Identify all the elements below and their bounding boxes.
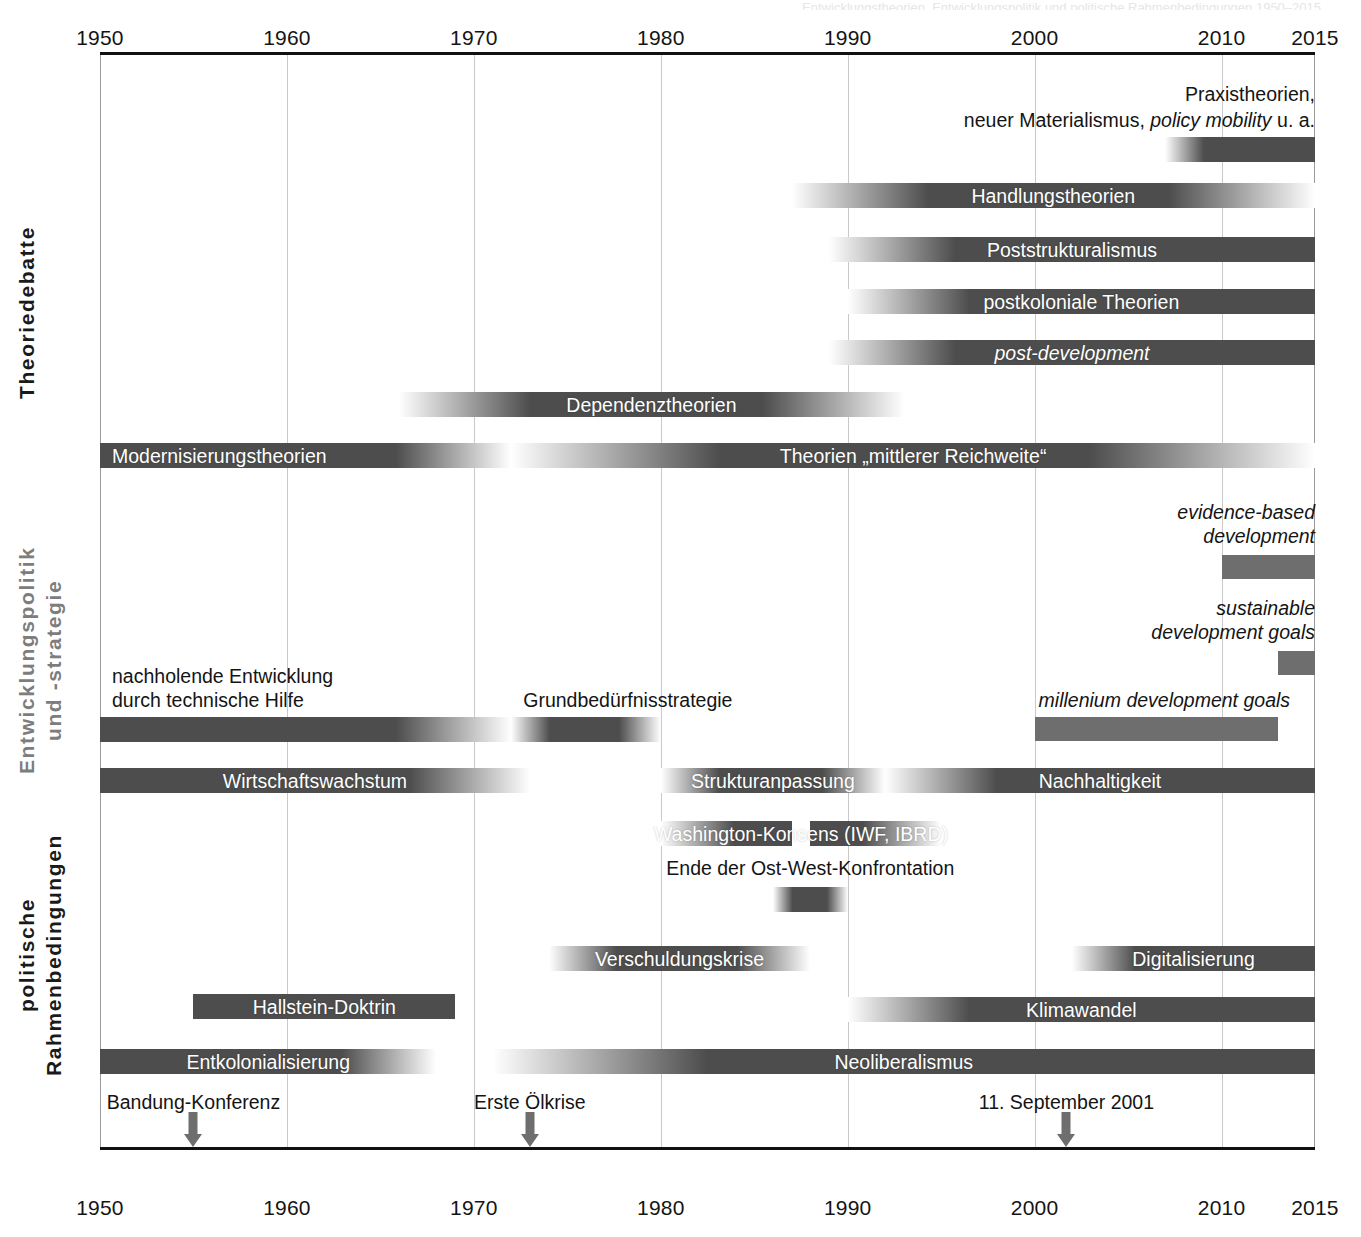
timeline-bar — [100, 717, 511, 742]
timeline-bar: Handlungstheorien — [792, 183, 1315, 208]
event-label: Bandung-Konferenz — [107, 1091, 280, 1114]
year-label-top-1980: 1980 — [637, 26, 685, 50]
section-title-rahmenbedingungen: politische Rahmenbedingungen — [14, 790, 68, 1120]
timeline-bar: post-development — [829, 340, 1315, 365]
timeline-bar: Digitalisierung — [1072, 946, 1315, 971]
timeline-bar: Dependenztheorien — [399, 392, 904, 417]
bar-label: Entkolonialisierung — [186, 1050, 350, 1073]
year-label-top-2000: 2000 — [1011, 26, 1059, 50]
bar-label: post-development — [994, 341, 1149, 364]
bar-label: Digitalisierung — [1132, 947, 1254, 970]
year-label-top-1990: 1990 — [824, 26, 872, 50]
timeline-bar: Strukturanpassung — [661, 768, 885, 793]
bar-fill — [1035, 717, 1278, 741]
year-label-top-2015: 2015 — [1291, 26, 1339, 50]
timeline-bar: Entkolonialisierung — [100, 1049, 436, 1074]
gridline-2000 — [1035, 55, 1036, 1147]
bar-caption: Ende der Ost-West-Konfrontation — [666, 857, 954, 881]
event-label: 11. September 2001 — [979, 1091, 1154, 1114]
year-label-top-1960: 1960 — [263, 26, 311, 50]
timeline-bar — [1165, 137, 1315, 162]
timeline-chart: Entwicklungstheorien, Entwicklungspoliti… — [0, 0, 1361, 1237]
plot-left-edge — [100, 55, 101, 1147]
gridline-1990 — [848, 55, 849, 1147]
bar-caption: evidence-based development — [1177, 501, 1315, 549]
bar-caption: nachholende Entwicklung durch technische… — [112, 665, 333, 713]
event-arrow-icon — [1058, 1112, 1074, 1147]
bar-label: Verschuldungskrise — [595, 947, 764, 970]
bar-label: Washington-Konsens (IWF, IBRD) — [654, 822, 948, 845]
timeline-bar — [773, 887, 848, 912]
timeline-bar: Modernisierungstheorien — [100, 443, 511, 468]
bar-label: Dependenztheorien — [566, 393, 736, 416]
timeline-bar — [1035, 717, 1278, 741]
bar-fill — [773, 887, 848, 912]
year-label-top-1970: 1970 — [450, 26, 498, 50]
plot-area: HandlungstheorienPoststrukturalismuspost… — [100, 55, 1315, 1147]
bar-label: Klimawandel — [1026, 998, 1137, 1021]
bar-caption: sustainable development goals — [1151, 597, 1315, 645]
bar-label: Hallstein-Doktrin — [253, 995, 396, 1018]
timeline-bar — [1278, 651, 1315, 675]
timeline-bar: postkoloniale Theorien — [848, 289, 1315, 314]
bar-label: postkoloniale Theorien — [983, 290, 1179, 313]
bar-label: Neoliberalismus — [834, 1050, 973, 1073]
bar-label: Modernisierungstheorien — [112, 444, 327, 467]
timeline-bar: Washington-Konsens (IWF, IBRD) — [661, 821, 941, 846]
bar-caption: millenium development goals — [1039, 689, 1290, 713]
praxistheorien-caption: Praxistheorien,neuer Materialismus, poli… — [964, 81, 1315, 133]
bar-label: Handlungstheorien — [971, 184, 1135, 207]
axis-top-line — [100, 52, 1315, 55]
timeline-bar — [511, 717, 661, 742]
cropped-header-strip: Entwicklungstheorien, Entwicklungspoliti… — [0, 0, 1361, 10]
year-label-top-2010: 2010 — [1198, 26, 1246, 50]
timeline-bar: Theorien „mittlerer Reichweite“ — [511, 443, 1315, 468]
year-label-top-1950: 1950 — [76, 26, 124, 50]
gridline-1980 — [661, 55, 662, 1147]
bar-fill — [1278, 651, 1315, 675]
bar-label: Theorien „mittlerer Reichweite“ — [780, 444, 1047, 467]
bar-label: Strukturanpassung — [691, 769, 855, 792]
bar-fill — [1222, 555, 1315, 579]
timeline-bar — [1222, 555, 1315, 579]
event-arrow-icon — [185, 1112, 201, 1147]
bar-label: Nachhaltigkeit — [1039, 769, 1161, 792]
year-label-bottom-1970: 1970 — [450, 1196, 498, 1220]
timeline-bar: Poststrukturalismus — [829, 237, 1315, 262]
year-label-bottom-1990: 1990 — [824, 1196, 872, 1220]
timeline-bar: Neoliberalismus — [493, 1049, 1315, 1074]
timeline-bar: Verschuldungskrise — [549, 946, 811, 971]
bar-fill — [511, 717, 661, 742]
year-label-bottom-2015: 2015 — [1291, 1196, 1339, 1220]
year-label-bottom-2000: 2000 — [1011, 1196, 1059, 1220]
timeline-bar: Nachhaltigkeit — [885, 768, 1315, 793]
bar-fill — [1165, 137, 1315, 162]
bar-fill — [100, 717, 511, 742]
gridline-1960 — [287, 55, 288, 1147]
bar-label: Wirtschaftswachstum — [223, 769, 407, 792]
gridline-1970 — [474, 55, 475, 1147]
year-label-bottom-2010: 2010 — [1198, 1196, 1246, 1220]
year-label-bottom-1980: 1980 — [637, 1196, 685, 1220]
year-label-bottom-1960: 1960 — [263, 1196, 311, 1220]
section-title-theoriedebatte: Theoriedebatte — [14, 148, 41, 478]
bar-label: Poststrukturalismus — [987, 238, 1157, 261]
axis-bottom-line — [100, 1147, 1315, 1150]
event-label: Erste Ölkrise — [474, 1091, 586, 1114]
bar-caption: Grundbedürfnisstrategie — [523, 689, 732, 713]
timeline-bar: Klimawandel — [848, 997, 1315, 1022]
event-arrow-icon — [522, 1112, 538, 1147]
timeline-bar: Wirtschaftswachstum — [100, 768, 530, 793]
year-label-bottom-1950: 1950 — [76, 1196, 124, 1220]
timeline-bar: Hallstein-Doktrin — [193, 994, 455, 1019]
section-title-entwicklungspolitik: Entwicklungspolitik und -strategie — [14, 500, 68, 820]
